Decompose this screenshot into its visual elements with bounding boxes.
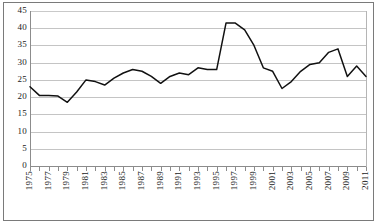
y-tick-label-5: 5 [1, 144, 27, 153]
x-tick-label-2011: 2011 [361, 171, 370, 190]
y-tick-label-25: 25 [1, 75, 27, 84]
y-tick-label-0: 0 [1, 161, 27, 170]
x-tick-label-1995: 1995 [212, 171, 221, 190]
x-tick-label-2007: 2007 [324, 171, 333, 190]
series-1-path [30, 23, 366, 102]
y-tick-label-40: 40 [1, 23, 27, 32]
x-tick-label-1983: 1983 [100, 171, 109, 190]
x-tick-label-1975: 1975 [25, 171, 34, 190]
y-tick-label-30: 30 [1, 58, 27, 67]
x-axis-tick-labels: 1975197719791981198319851987198919911993… [0, 171, 377, 221]
x-tick-label-1987: 1987 [137, 171, 146, 190]
x-tick-label-1977: 1977 [44, 171, 53, 190]
x-tick-label-1989: 1989 [156, 171, 165, 190]
data-series-line [30, 11, 367, 167]
x-tick-label-1997: 1997 [230, 171, 239, 190]
x-tick-label-1999: 1999 [249, 171, 258, 190]
x-tick-label-1991: 1991 [174, 171, 183, 190]
y-tick-label-10: 10 [1, 127, 27, 136]
y-tick-label-35: 35 [1, 40, 27, 49]
x-tick-label-2003: 2003 [286, 171, 295, 190]
x-tick-label-2009: 2009 [342, 171, 351, 190]
y-tick-label-20: 20 [1, 92, 27, 101]
y-tick-label-15: 15 [1, 109, 27, 118]
x-tick-label-1993: 1993 [193, 171, 202, 190]
x-tick-label-1981: 1981 [81, 171, 90, 190]
x-tick-label-2001: 2001 [268, 171, 277, 190]
chart-figure: 454035302520151050 197519771979198119831… [0, 0, 377, 224]
x-tick-label-1979: 1979 [62, 171, 71, 190]
x-tick-label-1985: 1985 [118, 171, 127, 190]
y-tick-label-45: 45 [1, 6, 27, 15]
x-tick-label-2005: 2005 [305, 171, 314, 190]
